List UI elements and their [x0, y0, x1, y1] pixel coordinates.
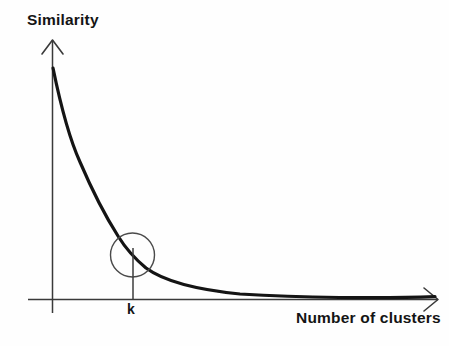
x-axis-label: Number of clusters	[296, 309, 441, 327]
chart-canvas	[0, 0, 449, 346]
elbow-tick-label: k	[127, 301, 135, 317]
elbow-method-figure: Similarity Number of clusters k	[0, 0, 449, 346]
similarity-decay-curve	[53, 68, 435, 298]
y-axis-label: Similarity	[27, 11, 99, 29]
